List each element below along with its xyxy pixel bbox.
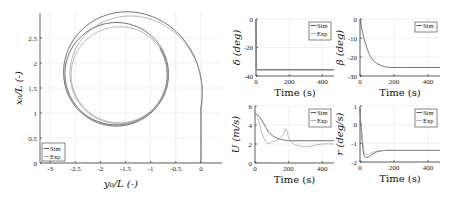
x-tick-label: 200 — [389, 164, 400, 172]
y-axis-label: δ (deg) — [231, 30, 242, 66]
y-tick-label: 0 — [354, 121, 358, 129]
x-tick-label: 400 — [317, 165, 328, 173]
y-tick-label: 0 — [354, 16, 358, 24]
y-tick-label: -30 — [348, 73, 358, 81]
x-tick-label: 200 — [389, 78, 400, 86]
x-axis-label: Time (s) — [379, 87, 420, 98]
x-tick-label: -1 — [148, 165, 154, 173]
y-tick-label: 6 — [249, 103, 253, 111]
legend-label-exp: Exp — [317, 30, 327, 37]
y-tick-label: 0 — [250, 16, 254, 24]
y-axis-label: x₀/L (-) — [13, 71, 24, 105]
legend: SimExp — [309, 109, 331, 128]
legend-label-sim: Sim — [423, 22, 433, 29]
x-axis-label: y₀/L (-) — [103, 178, 138, 189]
x-tick-label: 400 — [317, 78, 328, 86]
y-axis-label: r (deg/s) — [334, 112, 345, 155]
y-tick-label: -1 — [351, 140, 357, 148]
y-tick-label: 2 — [249, 141, 253, 149]
panel-beta: 0200400-30-20-100SimTime (s)β (deg) — [334, 16, 440, 99]
panel-trajectory: -3-2.5-2-1.5-1-0.5000.511.522.5SimExpy₀/… — [13, 12, 222, 189]
x-tick-label: -0.5 — [170, 165, 182, 173]
figure: -3-2.5-2-1.5-1-0.5000.511.522.5SimExpy₀/… — [0, 0, 450, 200]
x-tick-label: 0 — [254, 78, 258, 86]
x-tick-label: 0 — [253, 165, 257, 173]
y-tick-label: 0.5 — [28, 135, 37, 143]
panel-r: 0200400-2-101SimExpTime (s)r (deg/s) — [334, 103, 440, 185]
legend: Sim — [415, 22, 437, 33]
y-tick-label: 1 — [34, 110, 38, 118]
y-tick-label: 0 — [34, 160, 38, 168]
legend-label-sim: Sim — [317, 22, 327, 29]
legend-label-sim: Sim — [317, 109, 327, 116]
x-tick-label: -2 — [97, 165, 103, 173]
panel-U: 02004000246SimExpTime (s)U (m/s) — [230, 103, 334, 186]
y-tick-label: 1 — [354, 103, 358, 111]
panel-delta: 0200400-40-200SimExpTime (s)δ (deg) — [231, 16, 334, 99]
x-tick-label: 200 — [284, 78, 295, 86]
y-tick-label: 1.5 — [28, 85, 37, 93]
y-tick-label: -40 — [244, 73, 254, 81]
y-tick-label: 2 — [34, 60, 38, 68]
x-tick-label: 0 — [358, 78, 362, 86]
legend: SimExp — [42, 143, 65, 161]
x-tick-label: 0 — [358, 164, 362, 172]
y-tick-label: 2.5 — [28, 35, 37, 43]
legend-label-exp: Exp — [423, 117, 433, 124]
y-tick-label: -20 — [348, 54, 358, 62]
x-tick-label: 0 — [199, 165, 203, 173]
x-tick-label: -1.5 — [120, 165, 132, 173]
x-tick-label: 400 — [423, 78, 434, 86]
y-axis-label: U (m/s) — [230, 116, 241, 153]
y-axis-label: β (deg) — [334, 30, 345, 67]
legend-label-sim: Sim — [423, 109, 433, 116]
y-tick-label: 4 — [249, 122, 253, 130]
x-axis-label: Time (s) — [274, 87, 315, 98]
legend-label-exp: Exp — [50, 153, 60, 160]
y-tick-label: 0 — [249, 160, 253, 168]
legend-label-exp: Exp — [317, 117, 327, 124]
y-tick-label: -2 — [351, 159, 357, 167]
x-axis-label: Time (s) — [379, 173, 420, 184]
x-axis-label: Time (s) — [274, 174, 315, 185]
x-tick-label: -2.5 — [70, 165, 82, 173]
x-tick-label: -3 — [47, 165, 53, 173]
y-tick-label: -10 — [348, 35, 358, 43]
legend: SimExp — [309, 22, 331, 41]
sim-trajectory-line — [64, 12, 203, 163]
y-tick-label: -20 — [244, 44, 254, 52]
x-tick-label: 200 — [283, 165, 294, 173]
x-tick-label: 400 — [423, 164, 434, 172]
legend: SimExp — [415, 109, 437, 128]
legend-label-sim: Sim — [50, 145, 60, 152]
